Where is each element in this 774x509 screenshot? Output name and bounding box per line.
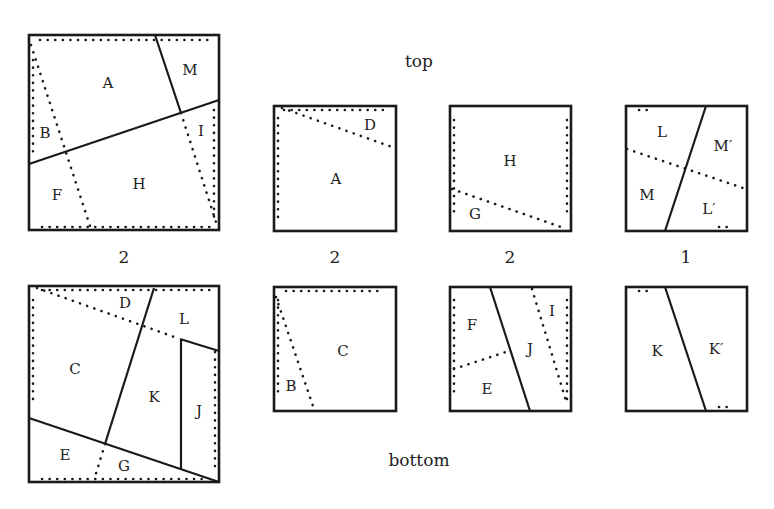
piece-label-F: F: [467, 316, 477, 334]
piece-label-B: B: [39, 124, 50, 142]
piece-label-D: D: [364, 116, 376, 134]
multiplicity-1: 2: [119, 247, 130, 267]
small-square-top-1: D A: [274, 106, 396, 231]
piece-label-D: D: [119, 294, 131, 312]
piece-label-K-prime: K′: [709, 340, 724, 358]
piece-label-K: K: [651, 342, 663, 360]
small-square-bottom-3: K K′: [626, 287, 747, 411]
piece-label-H: H: [503, 152, 516, 170]
piece-label-J: J: [525, 340, 533, 358]
piece-label-G: G: [118, 457, 130, 475]
multiplicity-3: 2: [505, 247, 516, 267]
piece-label-E: E: [482, 380, 493, 398]
piece-label-M: M: [182, 61, 197, 79]
piece-label-B: B: [285, 377, 296, 395]
piece-label-I: I: [549, 302, 555, 320]
small-square-bottom-1: C B: [274, 287, 396, 411]
heading-top: top: [405, 51, 433, 71]
piece-label-C: C: [69, 360, 80, 378]
piece-label-H: H: [132, 175, 145, 193]
heading-bottom: bottom: [388, 450, 449, 470]
piece-label-L: L: [657, 123, 667, 141]
big-square-bottom: D L C K J E G: [29, 286, 219, 482]
multiplicity-4: 1: [681, 247, 692, 267]
piece-label-I: I: [198, 122, 204, 140]
piece-label-L-prime: L′: [702, 200, 716, 218]
multiplicity-2: 2: [330, 247, 341, 267]
dissection-diagram: A M B I F H 2 top D A 2 H G 2 L M′ M L′: [0, 0, 774, 509]
small-square-top-2: H G: [450, 106, 571, 231]
piece-label-K: K: [148, 388, 160, 406]
piece-label-C: C: [337, 342, 348, 360]
piece-label-L: L: [179, 310, 189, 328]
piece-label-M: M: [639, 186, 654, 204]
piece-label-E: E: [60, 446, 71, 464]
piece-label-G: G: [469, 205, 481, 223]
big-square-top: A M B I F H: [29, 35, 219, 230]
small-square-bottom-2: F I J E: [450, 287, 571, 411]
piece-label-M-prime: M′: [714, 137, 733, 155]
piece-label-A: A: [330, 170, 342, 188]
piece-label-F: F: [52, 186, 62, 204]
piece-label-A: A: [102, 74, 114, 92]
small-square-top-3: L M′ M L′: [626, 106, 747, 231]
piece-label-J: J: [194, 402, 202, 420]
